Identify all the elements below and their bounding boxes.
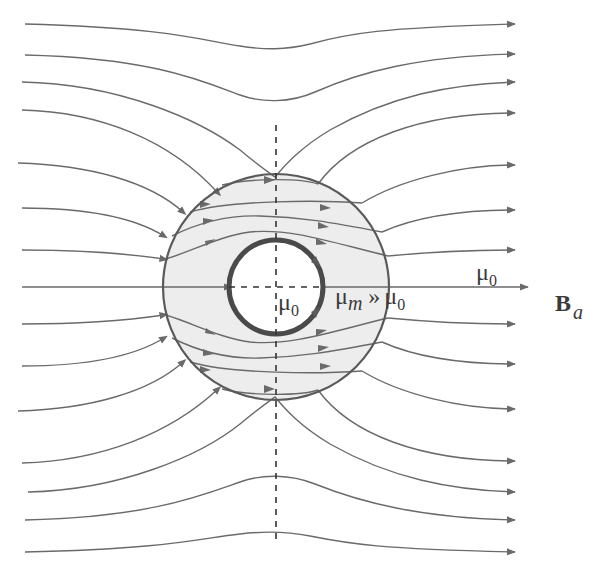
applied-field-label: Ba xyxy=(555,290,583,323)
outside-permeability-label: μ0 xyxy=(476,259,497,289)
magnetic-shielding-diagram: μ0 μm»μ0 μ0 Ba xyxy=(0,0,599,564)
